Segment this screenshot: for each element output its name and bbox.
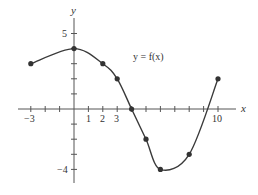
data-point xyxy=(143,137,148,142)
data-point xyxy=(115,76,120,81)
x-tick-label-1: 1 xyxy=(86,113,91,124)
x-tick-label-10: 10 xyxy=(212,113,222,124)
data-point xyxy=(158,167,163,172)
x-axis-label: x xyxy=(240,102,246,114)
data-point xyxy=(100,61,105,66)
data-point xyxy=(129,106,134,111)
data-point xyxy=(28,61,33,66)
data-point xyxy=(71,46,76,51)
function-label: y = f(x) xyxy=(133,51,164,63)
y-tick-label-5: 5 xyxy=(62,28,67,39)
y-tick-label-neg4: −4 xyxy=(57,164,68,175)
x-tick-label-2: 2 xyxy=(100,113,105,124)
function-graph: y x 5 −4 −3 1 2 3 10 y = f(x) xyxy=(0,0,258,195)
y-axis-label: y xyxy=(70,4,76,16)
x-tick-label-neg3: −3 xyxy=(24,113,35,124)
data-point xyxy=(215,76,220,81)
x-tick-label-3: 3 xyxy=(114,113,119,124)
data-point xyxy=(187,152,192,157)
